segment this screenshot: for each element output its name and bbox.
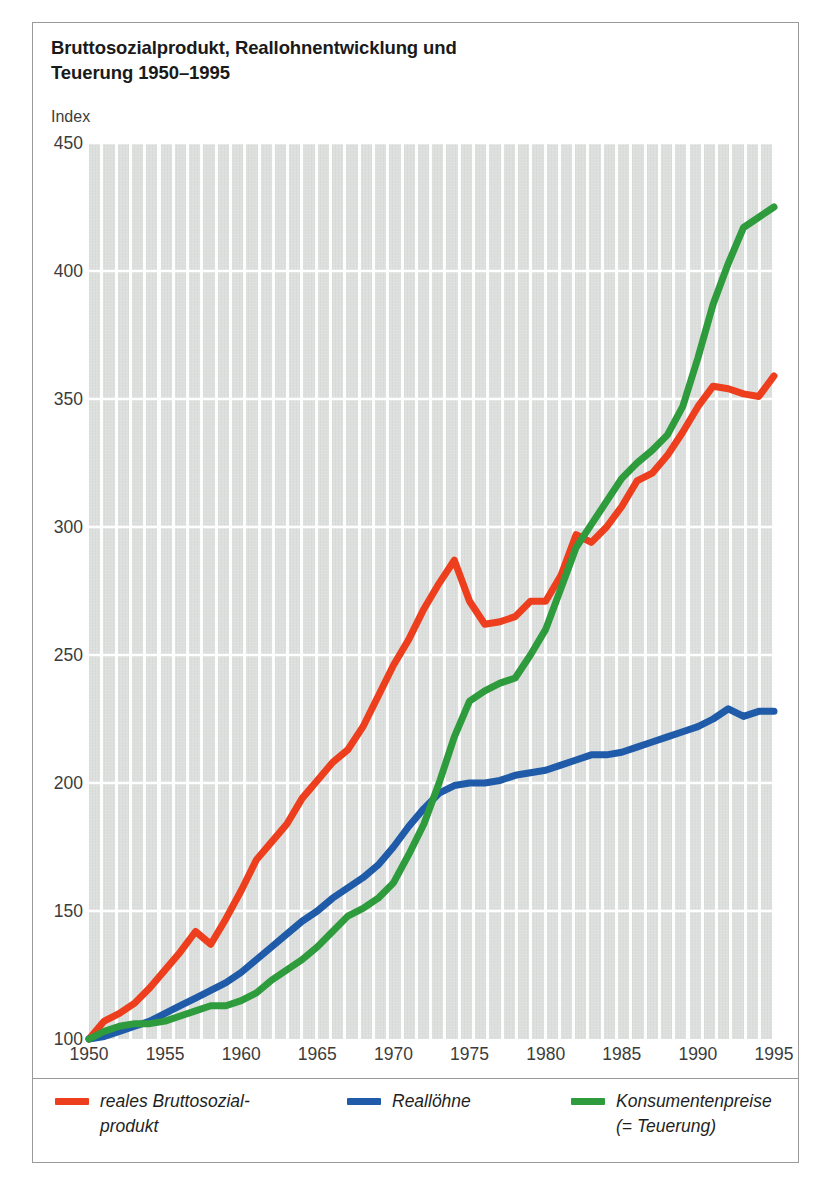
legend-separator xyxy=(33,1078,798,1079)
chart-legend: reales Bruttosozial- produkt Reallöhne K… xyxy=(51,1089,786,1159)
y-tick-label: 200 xyxy=(39,773,83,794)
legend-swatch-red xyxy=(55,1098,89,1105)
x-tick-label: 1970 xyxy=(374,1044,413,1065)
series-layer xyxy=(89,207,774,1039)
x-tick-label: 1995 xyxy=(755,1044,794,1065)
figure-panel: Bruttosozialprodukt, Reallohnentwicklung… xyxy=(32,22,799,1163)
series-line xyxy=(89,376,774,1039)
y-tick-label: 400 xyxy=(39,261,83,282)
x-tick-label: 1950 xyxy=(70,1044,109,1065)
y-tick-label: 300 xyxy=(39,517,83,538)
legend-label-bruttosozialprodukt: reales Bruttosozial- produkt xyxy=(100,1089,250,1139)
plot-svg xyxy=(89,143,774,1039)
legend-item-konsumentenpreise[interactable]: Konsumentenpreise (= Teuerung) xyxy=(571,1089,811,1139)
legend-item-realloehne[interactable]: Reallöhne xyxy=(347,1089,547,1114)
x-tick-label: 1990 xyxy=(678,1044,717,1065)
x-tick-label: 1960 xyxy=(222,1044,261,1065)
series-line xyxy=(89,709,774,1039)
chart-title: Bruttosozialprodukt, Reallohnentwicklung… xyxy=(51,36,751,85)
x-tick-label: 1965 xyxy=(298,1044,337,1065)
legend-label-konsumentenpreise: Konsumentenpreise (= Teuerung) xyxy=(616,1089,772,1139)
chart-title-line-2: Teuerung 1950–1995 xyxy=(51,61,751,86)
x-tick-label: 1955 xyxy=(146,1044,185,1065)
series-line xyxy=(89,207,774,1039)
legend-item-bruttosozialprodukt[interactable]: reales Bruttosozial- produkt xyxy=(55,1089,305,1139)
y-axis-ticks: 450400350300250200150100 xyxy=(33,143,83,1039)
x-tick-label: 1985 xyxy=(602,1044,641,1065)
y-tick-label: 350 xyxy=(39,389,83,410)
x-tick-label: 1980 xyxy=(526,1044,565,1065)
legend-swatch-green xyxy=(571,1098,605,1105)
x-axis-ticks: 1950195519601965197019751980198519901995 xyxy=(89,1044,774,1070)
chart-title-line-1: Bruttosozialprodukt, Reallohnentwicklung… xyxy=(51,36,751,61)
y-tick-label: 250 xyxy=(39,645,83,666)
x-tick-label: 1975 xyxy=(450,1044,489,1065)
y-axis-unit-label: Index xyxy=(51,108,90,126)
plot-area xyxy=(89,143,774,1039)
legend-swatch-blue xyxy=(347,1098,381,1105)
y-tick-label: 150 xyxy=(39,901,83,922)
y-tick-label: 450 xyxy=(39,133,83,154)
legend-label-realloehne: Reallöhne xyxy=(392,1089,471,1114)
